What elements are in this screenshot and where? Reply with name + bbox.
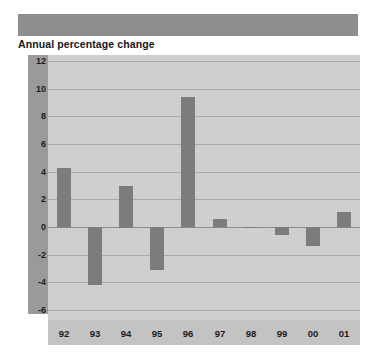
chart-subtitle: Annual percentage change (18, 38, 155, 50)
gridline (48, 61, 360, 62)
y-axis-tick-label: -4 (38, 277, 46, 287)
x-axis-tick-label-97: 97 (215, 327, 226, 338)
x-axis-tick-label-99: 99 (277, 327, 288, 338)
redacted-title-text (18, 14, 358, 36)
bar-01 (337, 212, 351, 227)
redacted-title-bar (18, 14, 358, 36)
x-axis-tick-label-01: 01 (339, 327, 350, 338)
gridline (48, 310, 360, 311)
y-axis-tick-label: -6 (38, 305, 46, 315)
x-axis-tick-label-92: 92 (59, 327, 70, 338)
y-axis-tick-label: 8 (41, 111, 46, 121)
gridline (48, 144, 360, 145)
bar-94 (119, 186, 133, 228)
y-axis-tick-label: 2 (41, 194, 46, 204)
gridline (48, 199, 360, 200)
gridline (48, 89, 360, 90)
gridline (48, 116, 360, 117)
y-axis-tick-label: 10 (36, 84, 46, 94)
bar-93 (88, 227, 102, 285)
plot-area (48, 55, 360, 320)
y-axis-tick-label: 12 (36, 56, 46, 66)
bar-97 (213, 219, 227, 227)
x-axis: 92939495969798990001 (48, 320, 360, 345)
y-axis-tick-label: 6 (41, 139, 46, 149)
gridline (48, 172, 360, 173)
x-axis-tick-label-93: 93 (90, 327, 101, 338)
bar-99 (275, 227, 289, 235)
bar-96 (181, 97, 195, 227)
x-axis-tick-label-94: 94 (121, 327, 132, 338)
bar-95 (150, 227, 164, 270)
x-axis-tick-label-95: 95 (152, 327, 163, 338)
bar-chart: 121086420-2-4-6 92939495969798990001 (28, 55, 360, 345)
x-axis-tick-label-00: 00 (308, 327, 319, 338)
bar-92 (57, 168, 71, 227)
y-axis-tick-label: 4 (41, 167, 46, 177)
y-axis-tick-label: 0 (41, 222, 46, 232)
x-axis-tick-label-96: 96 (183, 327, 194, 338)
y-axis: 121086420-2-4-6 (28, 55, 48, 314)
bar-00 (306, 227, 320, 246)
bar-98 (244, 227, 258, 228)
y-axis-tick-label: -2 (38, 250, 46, 260)
x-axis-tick-label-98: 98 (246, 327, 257, 338)
